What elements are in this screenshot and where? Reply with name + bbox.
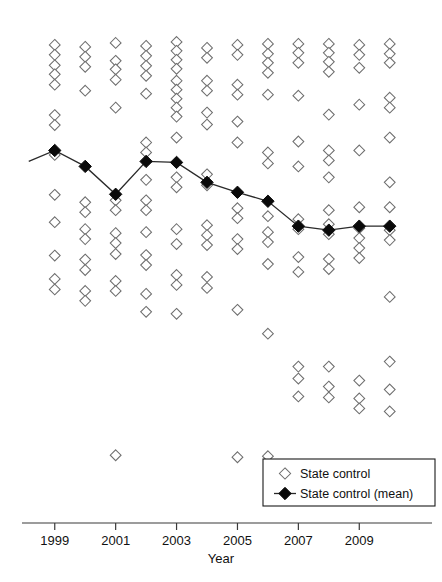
- data-point: [354, 403, 365, 414]
- data-point: [171, 224, 182, 235]
- data-point: [232, 304, 243, 315]
- data-point: [384, 38, 395, 49]
- data-point: [293, 373, 304, 384]
- data-point: [110, 228, 121, 239]
- data-point: [110, 450, 121, 461]
- data-point: [110, 38, 121, 49]
- data-point: [110, 286, 121, 297]
- data-point: [232, 116, 243, 127]
- data-point: [141, 70, 152, 81]
- data-point: [202, 107, 213, 118]
- data-point: [384, 57, 395, 68]
- data-point: [354, 233, 365, 244]
- data-point: [202, 272, 213, 283]
- chart-legend: State control State control (mean): [263, 459, 435, 506]
- data-point: [141, 40, 152, 51]
- data-point: [354, 62, 365, 73]
- data-point: [110, 205, 121, 216]
- data-point: [110, 102, 121, 113]
- data-point: [141, 250, 152, 261]
- data-point: [323, 172, 334, 183]
- data-point: [354, 253, 365, 264]
- state-control-points: [49, 37, 395, 463]
- data-point: [80, 254, 91, 265]
- data-point: [384, 235, 395, 246]
- data-point: [141, 137, 152, 148]
- data-point: [232, 244, 243, 255]
- data-point: [323, 392, 334, 403]
- legend-label-state-control-mean: State control (mean): [300, 487, 413, 501]
- data-point: [354, 39, 365, 50]
- data-point: [141, 227, 152, 238]
- data-point: [202, 52, 213, 63]
- data-point: [384, 102, 395, 113]
- data-point: [354, 243, 365, 254]
- data-point: [323, 254, 334, 265]
- data-point: [171, 280, 182, 291]
- data-point: [202, 283, 213, 294]
- data-point: [293, 136, 304, 147]
- data-point: [323, 264, 334, 275]
- data-point: [232, 452, 243, 463]
- chart-figure: 199920012003200520072009 Year State cont…: [0, 0, 442, 582]
- data-point: [80, 41, 91, 52]
- data-point: [232, 137, 243, 148]
- x-axis-tick-label: 2005: [223, 533, 252, 548]
- data-point: [323, 381, 334, 392]
- data-point: [171, 308, 182, 319]
- data-point: [49, 217, 60, 228]
- data-point: [384, 202, 395, 213]
- legend-label-state-control: State control: [300, 467, 370, 481]
- data-point: [80, 85, 91, 96]
- data-point: [293, 361, 304, 372]
- data-point: [232, 213, 243, 224]
- data-point: [141, 60, 152, 71]
- data-point: [354, 393, 365, 404]
- data-point: [323, 155, 334, 166]
- data-point: [354, 145, 365, 156]
- data-point: [171, 132, 182, 143]
- data-point: [293, 57, 304, 68]
- data-point: [110, 238, 121, 249]
- data-point: [263, 158, 274, 169]
- data-point: [49, 189, 60, 200]
- data-point: [80, 224, 91, 235]
- data-point: [232, 89, 243, 100]
- data-point: [263, 259, 274, 270]
- data-point: [171, 172, 182, 183]
- mean-data-point: [170, 156, 182, 168]
- data-point: [202, 220, 213, 231]
- data-point: [202, 75, 213, 86]
- data-point: [80, 286, 91, 297]
- data-point: [202, 85, 213, 96]
- x-axis-tick-labels: 199920012003200520072009: [40, 533, 373, 548]
- data-point: [110, 74, 121, 85]
- x-axis-tick-label: 2007: [284, 533, 313, 548]
- data-point: [49, 120, 60, 131]
- data-point: [110, 64, 121, 75]
- data-point: [323, 109, 334, 120]
- data-point: [141, 195, 152, 206]
- data-point: [49, 250, 60, 261]
- data-point: [202, 119, 213, 130]
- data-point: [80, 265, 91, 276]
- data-point: [323, 145, 334, 156]
- data-point: [49, 49, 60, 60]
- data-point: [293, 47, 304, 58]
- data-point: [110, 276, 121, 287]
- data-point: [323, 66, 334, 77]
- data-point: [263, 38, 274, 49]
- data-point: [49, 79, 60, 90]
- data-point: [141, 88, 152, 99]
- data-point: [171, 270, 182, 281]
- data-point: [263, 57, 274, 68]
- data-point: [171, 182, 182, 193]
- data-point: [384, 384, 395, 395]
- data-point: [232, 39, 243, 50]
- data-point: [141, 306, 152, 317]
- mean-data-point: [353, 220, 365, 232]
- data-point: [263, 89, 274, 100]
- data-point: [293, 252, 304, 263]
- data-point: [171, 239, 182, 250]
- data-point: [263, 237, 274, 248]
